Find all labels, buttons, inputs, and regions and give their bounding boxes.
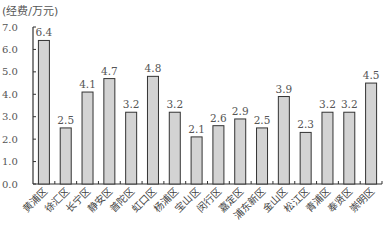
bar — [322, 112, 333, 184]
bar — [104, 79, 115, 184]
bar-value-label: 2.6 — [210, 112, 227, 124]
y-tick-label: 2.0 — [2, 134, 18, 145]
y-tick-label: 4.0 — [2, 89, 18, 100]
bar-value-label: 4.1 — [79, 78, 96, 90]
bar — [344, 112, 355, 184]
bar-value-label: 4.7 — [101, 65, 118, 77]
chart-canvas: (经费/万元) 0.01.02.03.04.05.06.07.0 黄浦区徐汇区长… — [0, 0, 392, 236]
bar-value-label: 3.2 — [341, 98, 358, 110]
bar-chart: (经费/万元) 0.01.02.03.04.05.06.07.0 黄浦区徐汇区长… — [0, 0, 392, 236]
bar — [147, 76, 158, 184]
bar — [278, 97, 289, 184]
bar-value-label: 4.8 — [145, 62, 162, 74]
y-tick-label: 1.0 — [2, 156, 18, 167]
bar — [82, 92, 93, 184]
y-tick-label: 3.0 — [2, 111, 18, 122]
y-tick-label: 7.0 — [2, 22, 18, 33]
bar — [366, 83, 377, 184]
bar — [169, 112, 180, 184]
bar-value-label: 2.5 — [254, 114, 271, 126]
bar-value-label: 3.9 — [275, 83, 292, 95]
y-axis: 0.01.02.03.04.05.06.07.0 — [2, 22, 36, 190]
bar — [38, 40, 49, 184]
bar — [300, 132, 311, 184]
bar-value-label: 3.2 — [166, 98, 183, 110]
x-category-label: 崇明区 — [348, 186, 377, 215]
bar-value-label: 3.2 — [123, 98, 140, 110]
y-tick-label: 5.0 — [2, 66, 18, 77]
bar — [257, 128, 268, 184]
bar — [235, 119, 246, 184]
bar-value-label: 6.4 — [36, 26, 53, 38]
bar — [60, 128, 71, 184]
bar — [213, 126, 224, 184]
bar — [191, 137, 202, 184]
y-tick-label: 6.0 — [2, 44, 18, 55]
bar-value-label: 2.5 — [57, 114, 74, 126]
bar-value-label: 2.1 — [188, 123, 205, 135]
y-axis-unit-label: (经费/万元) — [2, 5, 58, 18]
bar-value-label: 3.2 — [319, 98, 336, 110]
x-axis: 黄浦区徐汇区长宁区静安区普陀区虹口区杨浦区宝山区闵行区嘉定区浦东新区金山区松江区… — [20, 181, 382, 222]
bar-value-label: 2.3 — [297, 118, 314, 130]
bar-value-label: 4.5 — [363, 69, 380, 81]
bar — [126, 112, 137, 184]
bar-value-label: 2.9 — [232, 105, 249, 117]
y-tick-label: 0.0 — [2, 179, 18, 190]
bars: 6.42.54.14.73.24.83.22.12.62.92.53.92.33… — [36, 26, 380, 184]
